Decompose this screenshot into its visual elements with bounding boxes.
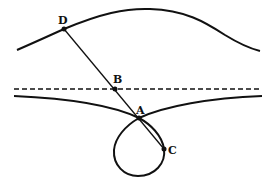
point-B xyxy=(113,87,118,92)
label-A: A xyxy=(135,104,145,117)
point-C xyxy=(162,147,167,152)
label-D: D xyxy=(58,14,68,27)
label-C: C xyxy=(168,144,177,157)
loop-curve xyxy=(114,118,164,176)
point-D xyxy=(62,27,67,32)
label-B: B xyxy=(113,73,122,86)
upper-curve xyxy=(17,9,260,51)
geometry-diagram: D B A C xyxy=(0,0,276,182)
